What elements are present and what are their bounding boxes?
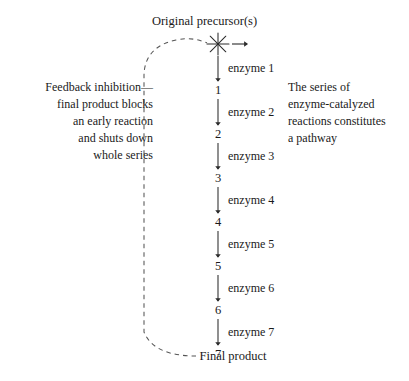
intermediate-2: 2 <box>215 127 221 142</box>
enzyme-label-7: enzyme 7 <box>228 325 274 340</box>
enzyme-label-1: enzyme 1 <box>228 61 274 76</box>
enzyme-label-5: enzyme 5 <box>228 237 274 252</box>
intermediate-5: 5 <box>215 259 221 274</box>
intermediate-1: 1 <box>215 83 221 98</box>
reaction-chain: enzyme 1 1 enzyme 2 2 enzyme 3 3 enzyme … <box>0 0 409 381</box>
intermediate-6: 6 <box>215 303 221 318</box>
enzyme-label-4: enzyme 4 <box>228 193 274 208</box>
intermediate-4: 4 <box>215 215 221 230</box>
final-product-label: Final product <box>199 348 266 365</box>
enzyme-label-3: enzyme 3 <box>228 149 274 164</box>
enzyme-label-2: enzyme 2 <box>228 105 274 120</box>
pathway-diagram: Original precursor(s) Feedback inhibitio… <box>0 0 409 381</box>
enzyme-label-6: enzyme 6 <box>228 281 274 296</box>
intermediate-3: 3 <box>215 171 221 186</box>
